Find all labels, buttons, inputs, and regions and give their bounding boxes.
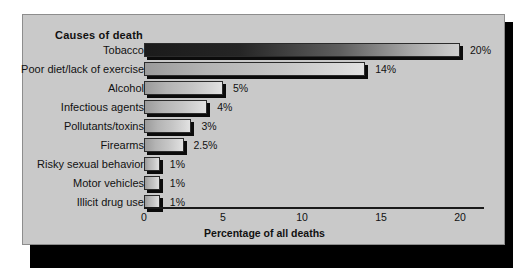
figure-frame: Causes of death Tobacco20%Poor diet/lack…: [22, 14, 505, 245]
category-label: Illicit drug use: [0, 196, 144, 208]
category-label: Risky sexual behavior: [0, 158, 144, 170]
bar: [144, 62, 365, 76]
x-tick-label: 0: [141, 211, 147, 223]
bar: [144, 100, 207, 114]
bar-container: [144, 81, 227, 97]
chart-title: Causes of death: [55, 29, 143, 41]
x-tick-label: 15: [375, 211, 387, 223]
bar-container: [144, 100, 211, 116]
category-label: Pollutants/toxins: [0, 120, 144, 132]
bar-container: [144, 157, 164, 173]
bar-row: Motor vehicles1%: [23, 175, 506, 194]
bar: [144, 157, 160, 171]
bar-row: Poor diet/lack of exercise14%: [23, 61, 506, 80]
bar-value-label: 2.5%: [194, 139, 218, 151]
bar-value-label: 1%: [170, 158, 185, 170]
bar-value-label: 1%: [170, 177, 185, 189]
category-label: Poor diet/lack of exercise: [0, 63, 144, 75]
bar-container: [144, 119, 195, 135]
x-axis-title: Percentage of all deaths: [23, 227, 506, 239]
bar: [144, 138, 184, 152]
bar: [144, 119, 191, 133]
bar-value-label: 4%: [217, 101, 232, 113]
x-axis-line: [144, 207, 484, 209]
bar-row: Infectious agents4%: [23, 99, 506, 118]
category-label: Alcohol: [0, 82, 144, 94]
x-tick-label: 10: [296, 211, 308, 223]
bar-row: Risky sexual behavior1%: [23, 156, 506, 175]
bar-row: Pollutants/toxins3%: [23, 118, 506, 137]
bar-value-label: 14%: [375, 63, 396, 75]
bar: [144, 176, 160, 190]
bar-row: Illicit drug use1%: [23, 194, 506, 213]
bar: [144, 43, 460, 57]
bar-value-label: 20%: [470, 44, 491, 56]
bar-value-label: 3%: [201, 120, 216, 132]
category-label: Tobacco: [0, 44, 144, 56]
bar-row: Tobacco20%: [23, 42, 506, 61]
x-tick-label: 20: [454, 211, 466, 223]
bar-row: Firearms2.5%: [23, 137, 506, 156]
category-label: Motor vehicles: [0, 177, 144, 189]
category-label: Firearms: [0, 139, 144, 151]
plot-area: Causes of death Tobacco20%Poor diet/lack…: [23, 15, 506, 246]
bar-row: Alcohol5%: [23, 80, 506, 99]
category-label: Infectious agents: [0, 101, 144, 113]
bar-container: [144, 176, 164, 192]
bar-container: [144, 62, 369, 78]
bar-container: [144, 138, 188, 154]
bar: [144, 81, 223, 95]
chart-figure: Causes of death Tobacco20%Poor diet/lack…: [0, 0, 517, 275]
x-tick-label: 5: [220, 211, 226, 223]
bar-container: [144, 43, 464, 59]
bar-value-label: 5%: [233, 82, 248, 94]
